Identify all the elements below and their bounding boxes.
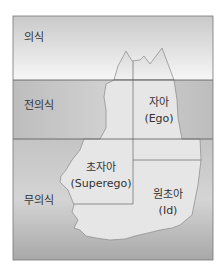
conscious-zone: [13, 16, 213, 80]
ego-label: 자아 (Ego): [140, 93, 178, 125]
id-label: 원초아 (Id): [143, 185, 193, 217]
superego-korean: 초자아: [68, 158, 134, 174]
level-label-preconscious: 전의식: [24, 96, 54, 112]
id-english: (Id): [143, 204, 193, 217]
level-label-unconscious: 무의식: [24, 191, 54, 207]
superego-label: 초자아 (Superego): [68, 158, 134, 190]
id-korean: 원초아: [143, 185, 193, 201]
level-label-conscious: 의식: [24, 28, 44, 44]
ego-korean: 자아: [140, 93, 178, 109]
superego-english: (Superego): [68, 177, 134, 190]
ego-english: (Ego): [140, 112, 178, 125]
